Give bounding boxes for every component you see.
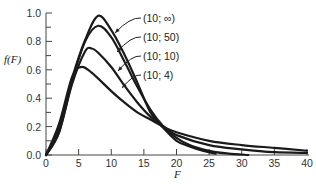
x-tick-label: 25 [203,157,215,169]
x-axis-title: F [173,168,181,180]
y-tick-label: 0.0 [26,149,41,161]
f-distribution-chart: 05101520253035400.00.20.40.60.81.0 (10; … [0,0,316,184]
x-tick-label: 10 [105,157,117,169]
series-label-2: (10; 10) [143,50,179,62]
y-axis-title: f(F) [4,53,21,66]
y-tick-label: 0.4 [26,92,41,104]
x-tick-label: 5 [76,157,82,169]
y-tick-label: 1.0 [26,7,41,19]
legend-annotations: (10; ∞)(10; 50)(10; 10)(10; 4) [115,12,179,88]
x-tick-label: 40 [301,157,313,169]
series-label-1: (10; 50) [143,31,179,43]
y-tick-label: 0.8 [26,35,41,47]
curve-series-1 [46,26,248,155]
x-tick-label: 0 [43,157,49,169]
y-tick-label: 0.2 [26,121,41,133]
x-tick-label: 15 [138,157,150,169]
y-tick-label: 0.6 [26,64,41,76]
x-tick-label: 35 [269,157,281,169]
x-tick-label: 30 [236,157,248,169]
series-label-3: (10; 4) [143,69,173,81]
series-label-0: (10; ∞) [143,12,175,24]
